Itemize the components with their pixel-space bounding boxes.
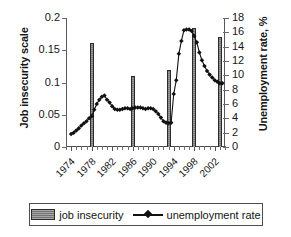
y-axis-right-tick xyxy=(223,147,229,148)
y-axis-right-tick-label: 6 xyxy=(232,97,238,109)
y-axis-right-tick-label: 2 xyxy=(232,126,238,138)
y-axis-right-tick-label: 18 xyxy=(232,11,244,23)
x-axis-tick-label: 1974 xyxy=(49,156,77,184)
legend-label-unemployment-rate: unemployment rate xyxy=(167,209,261,221)
y-axis-left-tick-label: 0.15 xyxy=(39,43,60,55)
line-marker-diamond xyxy=(174,78,179,83)
line-series-path xyxy=(71,29,222,134)
line-series-markers xyxy=(69,27,225,136)
line-marker-diamond xyxy=(177,52,182,57)
y-axis-right-tick-label: 14 xyxy=(232,40,244,52)
chart-figure: Job insecurity scale Unemployment rate, … xyxy=(0,0,291,237)
y-axis-right-tick-label: 12 xyxy=(232,54,244,66)
y-axis-right-title: Unemployment rate, % xyxy=(257,4,269,144)
line-marker-diamond xyxy=(192,34,197,39)
y-axis-right-tick-label: 0 xyxy=(232,140,238,152)
y-axis-right-tick-label: 16 xyxy=(232,25,244,37)
line-marker-diamond xyxy=(171,92,176,97)
line-marker-diamond xyxy=(143,210,151,218)
y-axis-left-tick-label: 0.05 xyxy=(39,108,60,120)
y-axis-left-tick-label: 0.2 xyxy=(45,11,60,23)
legend-entry-job-insecurity: job insecurity xyxy=(31,209,123,221)
y-axis-left-title: Job insecurity scale xyxy=(18,13,30,143)
x-axis-minor-tick xyxy=(225,146,226,150)
legend-label-job-insecurity: job insecurity xyxy=(59,209,123,221)
line-marker-diamond xyxy=(220,81,225,86)
line-series-unemployment-rate xyxy=(66,18,225,147)
y-axis-right-tick-label: 4 xyxy=(232,111,238,123)
line-marker-diamond xyxy=(92,107,97,112)
line-marker-diamond xyxy=(200,58,205,63)
y-axis-left-tick-label: 0 xyxy=(54,140,60,152)
y-axis-right-tick-label: 10 xyxy=(232,68,244,80)
line-marker-icon xyxy=(133,210,163,219)
line-marker-diamond xyxy=(195,40,200,45)
line-marker-diamond xyxy=(197,50,202,55)
bar-swatch-icon xyxy=(31,209,55,220)
legend-entry-unemployment-rate: unemployment rate xyxy=(133,209,261,221)
plot-area: 00.050.10.150.2 024681012141618 19741978… xyxy=(66,18,225,147)
line-marker-diamond xyxy=(202,64,207,69)
y-axis-left-tick-label: 0.1 xyxy=(45,76,60,88)
chart-legend: job insecurity unemployment rate xyxy=(29,203,263,226)
line-marker-diamond xyxy=(179,39,184,44)
y-axis-right-tick-label: 8 xyxy=(232,83,238,95)
